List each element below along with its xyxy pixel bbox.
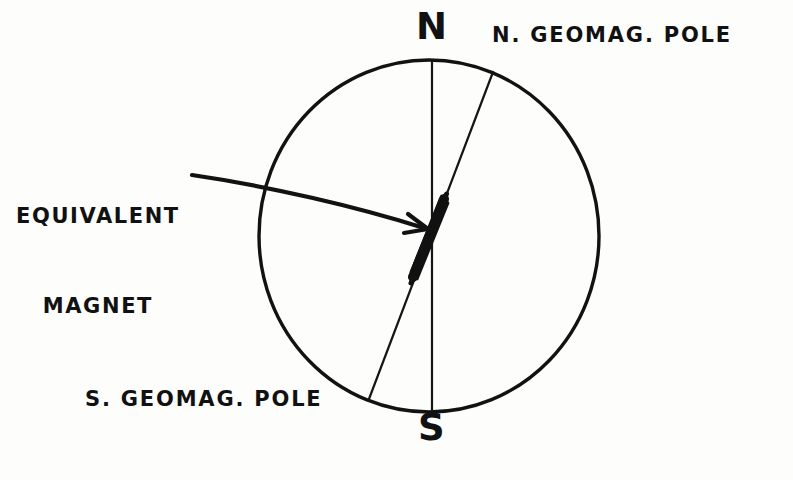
pointer-arrow xyxy=(192,175,428,233)
equivalent-magnet-bar xyxy=(410,194,450,283)
label-equivalent-magnet: EQUIVALENT MAGNET xyxy=(16,141,180,381)
label-equivalent-magnet-line1: EQUIVALENT xyxy=(16,201,180,231)
label-south-geographic-pole: S xyxy=(418,409,445,446)
geomagnetic-dipole-figure: N S N. GEOMAG. POLE S. GEOMAG. POLE EQUI… xyxy=(0,0,793,480)
pointer-arrow-line xyxy=(192,175,424,228)
label-equivalent-magnet-line2: MAGNET xyxy=(16,291,180,321)
magnet-bar-core xyxy=(413,199,444,277)
label-north-geomagnetic-pole: N. GEOMAG. POLE xyxy=(492,25,732,46)
label-north-geographic-pole: N xyxy=(416,8,447,45)
label-south-geomagnetic-pole: S. GEOMAG. POLE xyxy=(85,389,323,410)
